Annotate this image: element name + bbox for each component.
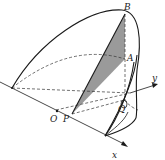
label-b: B	[123, 2, 131, 12]
point-o	[56, 110, 58, 112]
x-axis-arrow-icon	[121, 141, 128, 147]
label-q: Q	[118, 104, 126, 114]
label-y-axis: y	[151, 73, 158, 83]
dashed-base-to-y	[12, 88, 130, 93]
label-a: A	[126, 53, 134, 63]
geometry-figure: B A O P Q x y	[0, 0, 165, 160]
label-p: P	[62, 114, 70, 124]
y-axis-line	[130, 85, 155, 93]
point-left-end	[11, 87, 13, 89]
label-x-axis: x	[112, 150, 117, 160]
y-axis-arrow-icon	[152, 83, 158, 88]
label-o: O	[50, 114, 58, 124]
